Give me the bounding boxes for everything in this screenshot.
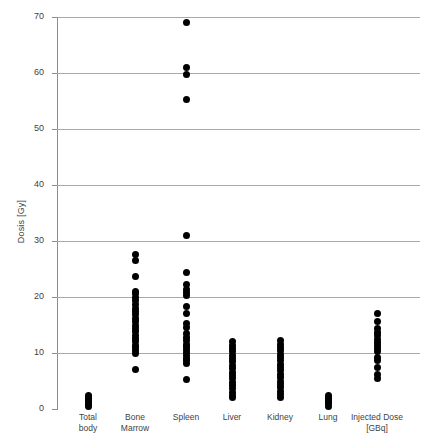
- data-point: [132, 273, 139, 280]
- data-point: [183, 96, 190, 103]
- y-axis-tick-label: 50: [0, 124, 44, 133]
- data-point: [132, 257, 139, 264]
- y-axis-tick-label: 60: [0, 68, 44, 77]
- y-axis-tick: [52, 17, 57, 18]
- data-point: [183, 310, 190, 317]
- data-point: [85, 392, 92, 399]
- y-axis-tick-label: 30: [0, 236, 44, 245]
- y-axis-tick: [52, 409, 57, 410]
- y-axis-tick: [52, 185, 57, 186]
- series-column: [186, 0, 187, 443]
- x-axis-category-labels: Total bodyBone MarrowSpleenLiverKidneyLu…: [0, 412, 425, 443]
- data-point: [374, 318, 381, 325]
- data-point: [325, 392, 332, 399]
- gridline: [57, 129, 420, 130]
- y-axis-tick-label: 20: [0, 292, 44, 301]
- series-column: [377, 0, 378, 443]
- data-point: [183, 360, 190, 367]
- y-axis-tick-label: 70: [0, 12, 44, 21]
- dose-scatter-chart: Dosis [Gy] 010203040506070 Total bodyBon…: [0, 0, 425, 443]
- gridline: [57, 17, 420, 18]
- data-point: [183, 64, 190, 71]
- data-point: [183, 71, 190, 78]
- gridline: [57, 73, 420, 74]
- y-axis-tick: [52, 129, 57, 130]
- gridline: [57, 297, 420, 298]
- gridline: [57, 353, 420, 354]
- y-axis-tick: [52, 297, 57, 298]
- y-axis-tick-labels: 010203040506070: [0, 0, 48, 443]
- data-point: [183, 292, 190, 299]
- data-point: [183, 269, 190, 276]
- series-column: [232, 0, 233, 443]
- gridline: [57, 185, 420, 186]
- plot-area: [57, 17, 420, 409]
- series-column: [328, 0, 329, 443]
- data-point: [374, 364, 381, 371]
- series-column: [88, 0, 89, 443]
- y-axis-tick: [52, 73, 57, 74]
- y-axis-tick: [52, 241, 57, 242]
- data-point: [183, 303, 190, 310]
- data-point: [374, 375, 381, 382]
- data-point: [183, 19, 190, 26]
- data-point: [132, 350, 139, 357]
- y-axis-tick: [52, 353, 57, 354]
- data-point: [183, 376, 190, 383]
- series-column: [280, 0, 281, 443]
- data-point: [374, 310, 381, 317]
- y-axis-tick-label: 10: [0, 348, 44, 357]
- data-point: [229, 394, 236, 401]
- gridline: [57, 241, 420, 242]
- data-point: [132, 366, 139, 373]
- data-point: [183, 232, 190, 239]
- series-column: [135, 0, 136, 443]
- data-point: [277, 394, 284, 401]
- y-axis-tick-label: 40: [0, 180, 44, 189]
